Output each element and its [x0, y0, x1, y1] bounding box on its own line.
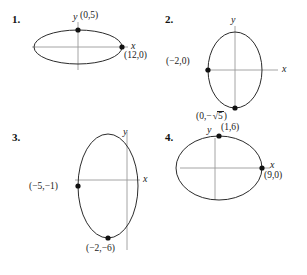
panel-4-svg [155, 122, 307, 275]
panel-2-label-suffix: ) [224, 111, 227, 121]
panel-2-point-0-negsqrt5 [232, 105, 237, 110]
panel-1-y-axis-label: y [73, 12, 77, 22]
ellipse-exercises-figure: 1. y (0,5) x (12,0) 2. [0, 0, 307, 275]
panel-2-radical: √5 [212, 111, 224, 122]
panel-3-ellipse [78, 134, 138, 238]
panel-1-point-12-0 [119, 44, 124, 49]
panel-2-point-label-neg2-0: (−2,0) [166, 57, 190, 67]
panel-2-x-axis-label: x [282, 64, 286, 74]
panel-1-svg [0, 0, 155, 122]
panel-3-point-label-neg5-neg1: (−5,−1) [29, 182, 58, 192]
panel-1-point-label-12-0: (12,0) [124, 51, 147, 61]
panel-3-point-neg2-neg6 [105, 235, 110, 240]
panel-4-point-label-9-0: (9,0) [264, 171, 282, 181]
panel-1-plot [0, 0, 155, 122]
panel-2-label-prefix: (0,− [196, 111, 212, 121]
panel-3-plot [0, 122, 155, 275]
panel-2-radicand: 5 [217, 111, 224, 122]
panel-4-point-1-6 [216, 133, 221, 138]
panel-1-point-0-5 [75, 27, 80, 32]
panel-3-y-axis-label: y [123, 127, 127, 137]
panel-2-point-neg2-0 [205, 67, 210, 72]
panel-1-point-label-0-5: (0,5) [80, 11, 98, 21]
panel-2-point-label-0-negsqrt5: (0,−√5) [196, 111, 227, 122]
panel-1: 1. y (0,5) x (12,0) [0, 0, 155, 122]
panel-3-x-axis-label: x [143, 174, 147, 184]
panel-4: 4. y (1,6) x (9,0) [155, 122, 307, 275]
panel-4-plot [155, 122, 307, 275]
panel-3: 3. y x (−5,−1) (−2,−6) [0, 122, 155, 275]
panel-2: 2. y x (−2,0) (0,−√5) [155, 0, 307, 122]
panel-3-point-neg5-neg1 [75, 183, 80, 188]
panel-3-point-label-neg2-neg6: (−2,−6) [86, 244, 115, 254]
panel-4-x-axis-label: x [270, 160, 274, 170]
panel-4-point-label-1-6: (1,6) [221, 123, 239, 133]
panel-3-svg [0, 122, 155, 275]
panel-4-y-axis-label: y [207, 125, 211, 135]
panel-2-y-axis-label: y [231, 15, 235, 25]
